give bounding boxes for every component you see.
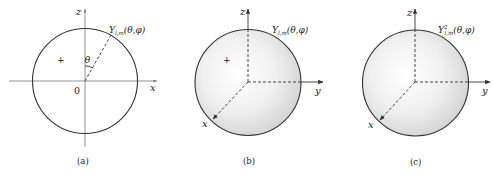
theta-label: θ <box>85 54 91 65</box>
panel-caption: (c) <box>410 157 421 167</box>
y-axis-label: y <box>481 85 488 96</box>
plus-sign: + <box>57 55 65 65</box>
x-axis-label: x <box>202 118 208 129</box>
x-axis-label: x <box>150 82 156 93</box>
panel-caption: (a) <box>77 156 89 166</box>
z-axis-label: z <box>239 6 246 17</box>
y-axis-label: y <box>314 85 321 96</box>
panel-b: z y x + Yl,m(θ,φ) (b) <box>195 6 323 166</box>
spherical-harmonics-figure: z x 0 θ + Yl,m(θ,φ) (a) z y x + Yl,m(θ,φ… <box>0 0 493 175</box>
function-label: Yl,m(θ,φ) <box>109 25 146 36</box>
origin-label: 0 <box>74 85 80 96</box>
panel-a: z x 0 θ + Yl,m(θ,φ) (a) <box>9 6 157 166</box>
z-axis-label: z <box>406 7 413 18</box>
plus-sign: + <box>223 55 231 65</box>
x-axis-label: x <box>368 119 374 130</box>
function-label: Yl,m(θ,φ) <box>272 25 309 36</box>
panel-caption: (b) <box>243 156 255 166</box>
function-label: Y2l,m(θ,φ) <box>438 24 475 36</box>
sphere <box>363 30 469 136</box>
theta-arc <box>85 66 93 68</box>
panel-c: z y x Y2l,m(θ,φ) (c) <box>363 7 491 167</box>
z-axis-label: z <box>75 6 82 17</box>
